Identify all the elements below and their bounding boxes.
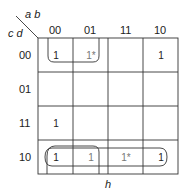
col-header-01: 01 bbox=[84, 25, 96, 36]
col-header-00: 00 bbox=[49, 25, 61, 36]
cell-10-11: 1* bbox=[116, 153, 136, 163]
cell-00-00: 1 bbox=[46, 51, 66, 61]
col-variable-label: a b bbox=[25, 9, 40, 20]
cell-00-10: 1 bbox=[151, 51, 171, 61]
cell-10-10: 1 bbox=[151, 153, 171, 163]
row-variable-label: c d bbox=[8, 28, 23, 39]
cell-00-01: 1* bbox=[81, 51, 101, 61]
row-header-11: 11 bbox=[19, 118, 30, 129]
row-header-00: 00 bbox=[19, 50, 31, 61]
row-header-10: 10 bbox=[19, 152, 31, 163]
col-header-10: 10 bbox=[154, 25, 166, 36]
row-header-01: 01 bbox=[19, 84, 31, 95]
bottom-label: h bbox=[105, 179, 111, 190]
cell-11-00: 1 bbox=[46, 119, 66, 129]
cell-10-01: 1 bbox=[81, 153, 101, 163]
cell-10-00: 1 bbox=[46, 153, 66, 163]
col-header-11: 11 bbox=[120, 25, 131, 36]
